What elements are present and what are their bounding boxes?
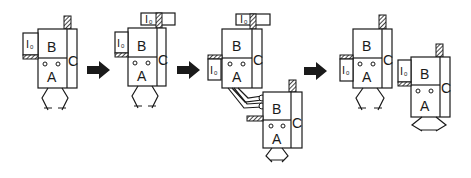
io-connector	[115, 53, 128, 57]
svg-text:C: C	[441, 80, 451, 96]
svg-text:I: I	[240, 13, 243, 25]
port-dot	[43, 62, 47, 66]
arrow-right-icon	[304, 62, 327, 80]
svg-text:C: C	[292, 115, 302, 131]
svg-text:I: I	[117, 37, 120, 49]
svg-text:C: C	[383, 52, 393, 68]
arrow-right-icon	[177, 61, 200, 79]
stage-4-unit-1: B C A I 0	[340, 15, 393, 110]
top-connector	[379, 15, 386, 29]
svg-text:A: A	[232, 69, 242, 85]
gripper-icon	[266, 148, 288, 162]
top-connector	[156, 13, 162, 28]
cable	[228, 88, 262, 108]
stage-1-unit: B C A I 0	[23, 16, 78, 110]
gripper-icon	[356, 88, 384, 110]
top-connector	[436, 44, 443, 57]
top-connector	[64, 16, 71, 29]
svg-text:B: B	[272, 101, 281, 117]
svg-text:C: C	[253, 52, 263, 68]
stage-4-unit-2: B C A I 0	[398, 44, 451, 131]
svg-text:I: I	[210, 64, 213, 76]
stage-3-upper-unit: I 0 B C A I 0	[208, 13, 270, 109]
side-connector	[247, 116, 263, 121]
replication-diagram: B C A I 0 I 0 B C A I 0	[0, 0, 471, 178]
svg-text:B: B	[362, 38, 371, 54]
gripper-icon	[42, 88, 68, 110]
stage-2-unit: I 0 B C A I 0	[115, 13, 175, 108]
io-label: I	[26, 38, 29, 50]
io-connector	[23, 55, 38, 59]
port-dot	[56, 62, 60, 66]
svg-text:B: B	[232, 38, 241, 54]
gripper-icon	[132, 86, 158, 108]
top-connector	[250, 14, 256, 29]
arrow-right-icon	[87, 61, 110, 79]
block-b-label: B	[137, 38, 146, 54]
top-connector	[289, 80, 296, 92]
stage-3-lower-unit: B C A	[247, 80, 302, 162]
block-b-label: B	[47, 39, 56, 55]
svg-text:I: I	[342, 64, 345, 76]
svg-text:I: I	[400, 65, 403, 77]
svg-text:A: A	[420, 98, 430, 114]
block-c-label: C	[158, 52, 168, 68]
cable	[232, 88, 262, 102]
svg-text:B: B	[420, 66, 429, 82]
block-a-label: A	[47, 69, 57, 85]
io-label: I	[145, 13, 148, 25]
gripper-icon	[412, 117, 446, 131]
svg-text:A: A	[272, 131, 282, 147]
block-a-label: A	[137, 68, 147, 84]
block-c-label: C	[68, 53, 78, 69]
svg-text:A: A	[362, 69, 372, 85]
io-connector	[398, 82, 411, 86]
